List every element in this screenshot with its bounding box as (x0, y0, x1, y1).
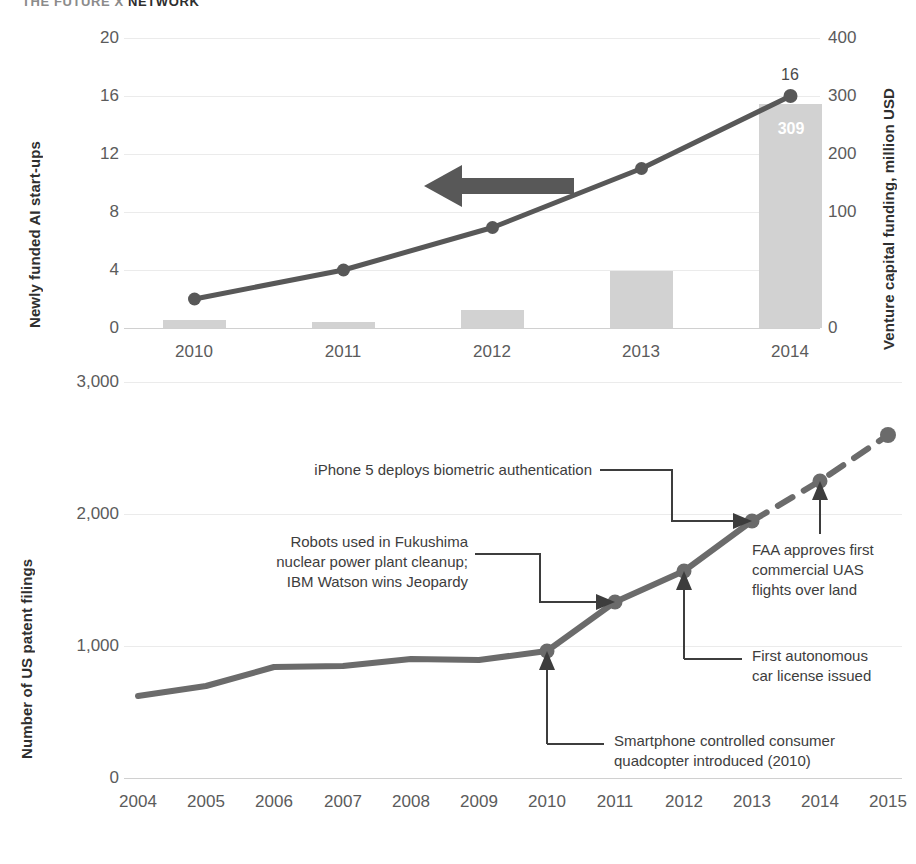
bottom-xtick-2010: 2010 (528, 792, 566, 812)
top-xtick-2013: 2013 (622, 342, 660, 362)
bottom-chart-line-svg (0, 374, 916, 864)
bottom-xtick-2005: 2005 (187, 792, 225, 812)
bottom-xtick-2012: 2012 (665, 792, 703, 812)
annotation-quadcopter: Smartphone controlled consumer quadcopte… (614, 731, 904, 771)
brand-prefix: THE FUTURE X (22, 0, 128, 9)
annotation-autonomous-car: First autonomous car license issued (752, 646, 912, 686)
bottom-xtick-2014: 2014 (801, 792, 839, 812)
leader-iphone5 (600, 470, 738, 521)
top-point-value-label-2014: 16 (781, 66, 799, 84)
top-xtick-2011: 2011 (325, 342, 362, 362)
top-point-2013 (635, 162, 648, 175)
top-point-2014 (784, 89, 798, 103)
top-xtick-2014: 2014 (771, 342, 809, 362)
left-axis-arrow-icon (424, 165, 574, 207)
bottom-xtick-2015: 2015 (869, 792, 907, 812)
top-point-2011 (337, 264, 350, 277)
bottom-xtick-2009: 2009 (460, 792, 498, 812)
brand-wordmark: THE FUTURE X NETWORK (22, 0, 199, 9)
top-xtick-2010: 2010 (175, 342, 213, 362)
brand-bold: NETWORK (128, 0, 199, 9)
bottom-xtick-2006: 2006 (255, 792, 293, 812)
annotation-iphone5: iPhone 5 deploys biometric authenticatio… (300, 460, 592, 480)
top-point-2010 (188, 293, 201, 306)
annotation-faa: FAA approves first commercial UAS flight… (752, 540, 912, 599)
chart-ai-startups-funding: Newly funded AI start-ups Venture capita… (0, 20, 916, 380)
top-line-series (195, 96, 791, 299)
top-chart-line-svg (0, 20, 916, 380)
bottom-xtick-2008: 2008 (392, 792, 430, 812)
bottom-xtick-2007: 2007 (324, 792, 362, 812)
bottom-xtick-2013: 2013 (733, 792, 771, 812)
bottom-xtick-2011: 2011 (597, 792, 634, 812)
bottom-point-2015 (880, 427, 896, 443)
bottom-xtick-2004: 2004 (119, 792, 157, 812)
leader-fukushima (475, 554, 601, 602)
top-xtick-2012: 2012 (473, 342, 511, 362)
annotation-fukushima: Robots used in Fukushima nuclear power p… (190, 532, 468, 591)
chart-us-patent-filings: Number of US patent filings 3,000 2,000 … (0, 374, 916, 864)
top-point-2012 (486, 221, 499, 234)
